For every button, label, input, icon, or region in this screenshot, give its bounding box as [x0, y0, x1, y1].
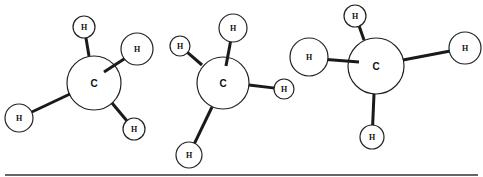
hydrogen-atom: H [219, 14, 247, 42]
hydrogen-atom: H [5, 104, 33, 132]
hydrogen-label: H [281, 85, 288, 94]
hydrogen-label: H [177, 42, 184, 51]
carbon-atom: C [348, 38, 404, 94]
hydrogen-atom: H [170, 36, 190, 56]
bond-line-1 [187, 52, 202, 65]
bond-line-3 [112, 103, 127, 121]
hydrogen-atom: H [176, 142, 202, 168]
hydrogen-atom: H [449, 32, 481, 64]
hydrogen-label: H [81, 23, 88, 32]
bond-line-3 [373, 94, 374, 126]
hydrogen-atom: H [73, 16, 95, 38]
carbon-label: C [219, 78, 226, 89]
hydrogen-atom: H [274, 79, 294, 99]
bond-line-2 [249, 85, 275, 88]
bond-line-0 [359, 25, 364, 40]
hydrogen-label: H [230, 24, 237, 33]
carbon-label: C [90, 78, 97, 89]
bond-line-2 [403, 51, 450, 60]
hydrogen-atom: H [344, 5, 366, 27]
molecule-methane-2: CHHHH [170, 14, 294, 168]
hydrogen-atom: H [121, 33, 153, 65]
bond-line-2 [31, 94, 70, 113]
hydrogen-atom: H [123, 118, 145, 140]
methane-molecules-diagram: CHHHHCHHHHCHHHH [0, 0, 483, 177]
carbon-atom: C [197, 57, 249, 109]
hydrogen-label: H [352, 12, 359, 21]
hydrogen-label: H [306, 53, 313, 62]
hydrogen-label: H [16, 114, 23, 123]
carbon-atom: C [67, 56, 121, 110]
hydrogen-label: H [186, 151, 193, 160]
hydrogen-label: H [369, 133, 376, 142]
hydrogen-label: H [462, 44, 469, 53]
hydrogen-label: H [134, 45, 141, 54]
molecule-methane-1: CHHHH [5, 16, 153, 140]
hydrogen-label: H [131, 125, 138, 134]
bond-line-3 [194, 107, 212, 144]
molecules-group: CHHHHCHHHHCHHHH [5, 5, 481, 168]
hydrogen-atom: H [360, 125, 384, 149]
molecule-methane-3: CHHHH [290, 5, 481, 149]
bond-line-0 [86, 37, 89, 56]
hydrogen-atom: H [290, 38, 328, 76]
carbon-label: C [372, 61, 379, 72]
